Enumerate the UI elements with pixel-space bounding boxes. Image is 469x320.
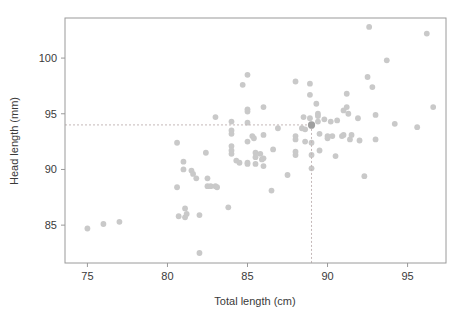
- data-point: [345, 111, 351, 117]
- data-point: [275, 125, 281, 131]
- data-point: [245, 161, 251, 167]
- data-point: [101, 221, 107, 227]
- data-point: [214, 184, 220, 190]
- x-tick-label: 95: [401, 270, 413, 282]
- data-point: [366, 24, 372, 30]
- x-tick-label: 75: [81, 270, 93, 282]
- data-point: [333, 153, 339, 159]
- reference-lines-layer: [65, 121, 315, 263]
- scatter-plot-figure: 7580859095859095100 Total length (cm) He…: [0, 0, 469, 320]
- data-point: [317, 131, 323, 137]
- data-point: [424, 31, 430, 37]
- y-axis-title: Head length (mm): [8, 97, 20, 185]
- data-point: [245, 72, 251, 78]
- data-point: [373, 136, 379, 142]
- data-point: [261, 163, 267, 169]
- data-point: [253, 154, 259, 160]
- data-point: [181, 167, 187, 173]
- data-point: [261, 132, 267, 138]
- axis-tick-labels: 7580859095859095100: [39, 52, 414, 282]
- data-point: [365, 74, 371, 80]
- data-point: [384, 57, 390, 63]
- data-point: [293, 152, 299, 158]
- data-point: [315, 113, 321, 119]
- data-point: [301, 114, 307, 120]
- data-point: [174, 184, 180, 190]
- data-point: [85, 226, 91, 232]
- data-point: [193, 175, 199, 181]
- data-point: [341, 132, 347, 138]
- data-point: [229, 151, 235, 157]
- data-point: [373, 112, 379, 118]
- data-point: [329, 133, 335, 139]
- data-point: [334, 118, 340, 124]
- y-tick-label: 95: [45, 108, 57, 120]
- highlighted-data-point: [308, 121, 315, 128]
- data-point: [176, 213, 182, 219]
- data-point: [355, 115, 361, 121]
- data-point: [245, 109, 251, 115]
- data-point: [174, 140, 180, 146]
- data-point: [349, 132, 355, 138]
- data-points-layer: [85, 24, 437, 256]
- x-axis-title: Total length (cm): [214, 295, 295, 307]
- data-point: [414, 124, 420, 130]
- data-point: [225, 204, 231, 210]
- data-point: [307, 115, 313, 121]
- data-point: [203, 150, 209, 156]
- data-point: [197, 212, 203, 218]
- data-point: [430, 104, 436, 110]
- y-tick-label: 90: [45, 163, 57, 175]
- data-point: [245, 139, 251, 145]
- data-point: [261, 104, 267, 110]
- data-point: [269, 188, 275, 194]
- data-point: [328, 119, 334, 125]
- data-point: [182, 206, 188, 212]
- y-tick-label: 100: [39, 52, 57, 64]
- data-point: [302, 126, 308, 132]
- data-point: [240, 82, 246, 88]
- data-point: [313, 101, 319, 107]
- data-point: [293, 136, 299, 142]
- data-point: [184, 211, 190, 217]
- data-point: [293, 79, 299, 85]
- data-point: [205, 175, 211, 181]
- data-point: [315, 119, 321, 125]
- data-point: [369, 84, 375, 90]
- data-point: [285, 172, 291, 178]
- data-point: [307, 92, 313, 98]
- data-point: [261, 155, 267, 161]
- x-tick-label: 80: [161, 270, 173, 282]
- x-tick-label: 85: [241, 270, 253, 282]
- data-point: [344, 91, 350, 97]
- data-point: [270, 147, 276, 153]
- data-point: [251, 135, 257, 141]
- data-point: [302, 139, 308, 145]
- data-point: [213, 114, 219, 120]
- y-tick-label: 85: [45, 219, 57, 231]
- data-point: [357, 138, 363, 144]
- data-point: [117, 219, 123, 225]
- data-point: [181, 159, 187, 165]
- data-point: [229, 131, 235, 137]
- data-point: [361, 173, 367, 179]
- data-point: [321, 116, 327, 122]
- data-point: [344, 104, 350, 110]
- data-point: [229, 119, 235, 125]
- data-point: [253, 161, 259, 167]
- data-point: [307, 81, 313, 87]
- data-point: [197, 250, 203, 256]
- data-point: [237, 160, 243, 166]
- data-point: [317, 148, 323, 154]
- x-tick-label: 90: [321, 270, 333, 282]
- plot-canvas: 7580859095859095100 Total length (cm) He…: [0, 0, 469, 320]
- data-point: [392, 121, 398, 127]
